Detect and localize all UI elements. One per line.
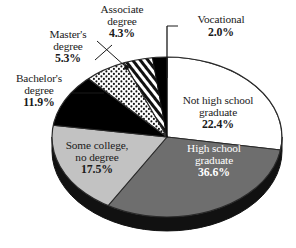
- slice-value-bachelors-degree: 11.9%: [3, 96, 75, 108]
- slice-value-masters-degree: 5.3%: [34, 52, 102, 64]
- slice-label-associate-degree-line1: Associate: [86, 4, 158, 16]
- leader-dot-masters: [124, 65, 129, 70]
- slice-label-masters-degree: Master's degree 5.3%: [34, 29, 102, 65]
- slice-label-masters-degree-line1: Master's: [34, 29, 102, 41]
- slice-label-bachelors-degree: Bachelor's degree 11.9%: [3, 73, 75, 109]
- slice-value-not-high-school-graduate: 22.4%: [175, 118, 261, 130]
- slice-label-not-high-school-graduate-line1: Not high school: [175, 95, 261, 107]
- slice-label-bachelors-degree-line1: Bachelor's: [3, 73, 75, 85]
- slice-label-high-school-graduate-line1: High school: [176, 143, 252, 155]
- slice-label-not-high-school-graduate: Not high school graduate 22.4%: [175, 95, 261, 131]
- slice-label-high-school-graduate: High school graduate 36.6%: [176, 143, 252, 179]
- slice-value-high-school-graduate: 36.6%: [176, 166, 252, 178]
- slice-label-some-college-no-degree-line1: Some college,: [56, 140, 138, 152]
- slice-label-vocational: Vocational 2.0%: [181, 14, 261, 38]
- slice-value-some-college-no-degree: 17.5%: [56, 163, 138, 175]
- pie-chart: Associate degree 4.3% Vocational 2.0% Ma…: [0, 0, 296, 248]
- slice-value-vocational: 2.0%: [181, 26, 261, 38]
- slice-label-vocational-line1: Vocational: [181, 14, 261, 26]
- slice-label-some-college-no-degree: Some college, no degree 17.5%: [56, 140, 138, 176]
